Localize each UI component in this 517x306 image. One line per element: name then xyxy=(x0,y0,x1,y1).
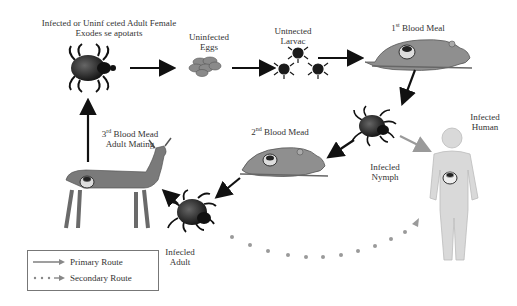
second-meal-label: 2nd Blood Mead xyxy=(240,124,320,137)
dotted-arrow-icon xyxy=(32,274,66,282)
eggs-icon xyxy=(189,57,221,77)
label-text: Blood Mead xyxy=(111,129,158,139)
label-line: Larvac xyxy=(268,36,318,46)
label-line: Exodes se apotarts xyxy=(34,28,184,38)
label-line: Adult xyxy=(160,257,200,267)
human-host-icon xyxy=(430,128,478,260)
nymph-tick-icon xyxy=(352,106,396,146)
solid-arrow-icon xyxy=(32,258,66,266)
nymph-label: Infecled Nymph xyxy=(360,162,410,182)
legend: Primary Route Secondary Route xyxy=(27,250,159,291)
label-line: Infected or Uninf ceted Adult Female xyxy=(34,18,184,28)
adult-female-tick-icon xyxy=(70,44,116,92)
adult-label: Infecled Adult xyxy=(160,247,200,267)
first-meal-label: 1st Blood Meal xyxy=(378,20,458,33)
deer-host-icon xyxy=(66,138,171,228)
arrow-to-nymph xyxy=(403,70,415,102)
label-line: Uninfected xyxy=(184,32,234,42)
label-text: Blood Mead xyxy=(262,127,309,137)
larvae-icon xyxy=(274,47,328,79)
adult-tick-icon xyxy=(168,190,216,232)
larvae-label: Untnected Larvac xyxy=(268,26,318,46)
label-line: Infected xyxy=(460,112,510,122)
third-meal-label: 3rd Blood Mead Adult Mating xyxy=(90,126,170,149)
secondary-route-dots xyxy=(230,218,419,259)
mouse-host-icon xyxy=(365,40,472,71)
eggs-label: Uninfected Eggs xyxy=(184,32,234,52)
legend-primary-label: Primary Route xyxy=(70,257,123,267)
label-line: Infecled xyxy=(160,247,200,257)
mouse-host-icon xyxy=(240,148,328,177)
label-text: Blood Meal xyxy=(400,23,445,33)
label-line: Eggs xyxy=(184,42,234,52)
legend-secondary: Secondary Route xyxy=(32,273,132,283)
arrow-to-human xyxy=(400,136,428,150)
legend-primary: Primary Route xyxy=(32,257,123,267)
arrow-to-adult xyxy=(218,178,240,196)
label-line: Human xyxy=(460,122,510,132)
arrow-to-second-meal xyxy=(330,140,354,156)
label-line: Adult Mating xyxy=(90,139,170,149)
label-line: Infecled xyxy=(360,162,410,172)
label-line: Nymph xyxy=(360,172,410,182)
label-line: Untnected xyxy=(268,26,318,36)
legend-secondary-label: Secondary Route xyxy=(70,273,132,283)
human-label: Infected Human xyxy=(460,112,510,132)
adult-female-label: Infected or Uninf ceted Adult Female Exo… xyxy=(34,18,184,38)
